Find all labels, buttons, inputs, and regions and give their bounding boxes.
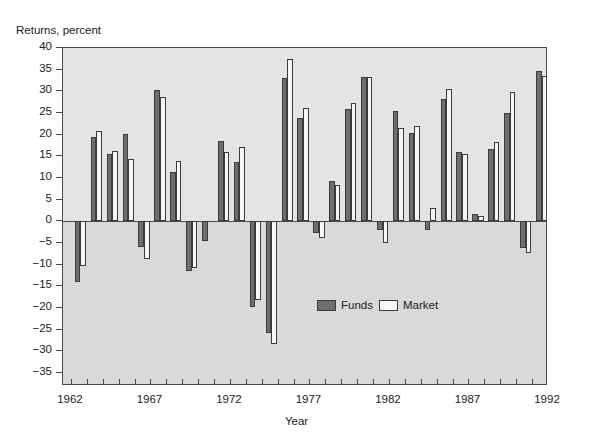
x-tick-mark [341, 379, 342, 385]
bar-funds-1986 [456, 152, 462, 221]
bar-funds-1990 [520, 221, 526, 247]
x-tick-label: 1987 [445, 393, 489, 405]
y-tick-label: −10 [10, 257, 52, 269]
x-tick-label: 1972 [207, 393, 251, 405]
bar-funds-1976 [297, 118, 303, 221]
bar-market-1979 [351, 103, 357, 221]
x-tick-label: 1967 [127, 393, 171, 405]
y-tick-label: 20 [10, 127, 52, 139]
x-tick-mark [453, 379, 454, 385]
x-tick-mark [214, 379, 215, 385]
y-tick-label: 10 [10, 170, 52, 182]
y-tick-label: 40 [10, 40, 52, 52]
y-tick-label: 5 [10, 192, 52, 204]
bar-funds-1971 [218, 141, 224, 222]
chart-legend: Funds Market [317, 300, 438, 312]
y-tick-label: 25 [10, 105, 52, 117]
y-tick-label: −5 [10, 235, 52, 247]
x-tick-mark [150, 379, 151, 385]
x-tick-mark [198, 379, 199, 385]
zero-baseline [63, 221, 546, 222]
bar-market-1973 [255, 221, 261, 299]
bar-funds-1967 [154, 90, 160, 221]
x-tick-mark [500, 379, 501, 385]
bar-market-1964 [112, 151, 118, 222]
x-tick-mark [309, 379, 310, 385]
bar-market-1989 [510, 92, 516, 221]
x-tick-mark [325, 379, 326, 385]
bar-market-1968 [176, 161, 182, 222]
bar-market-1986 [462, 154, 468, 221]
x-tick-mark [182, 379, 183, 385]
x-tick-mark [516, 379, 517, 385]
bar-market-1972 [239, 147, 245, 222]
bar-funds-1975 [282, 78, 288, 221]
x-tick-mark [230, 379, 231, 385]
bar-funds-1991 [536, 71, 542, 222]
x-tick-mark [437, 379, 438, 385]
legend-item-funds: Funds [317, 300, 373, 312]
bar-market-1991 [542, 76, 547, 222]
x-tick-mark [373, 379, 374, 385]
bar-funds-1973 [250, 221, 256, 307]
bar-funds-1969 [186, 221, 192, 271]
bar-funds-1984 [425, 221, 431, 230]
bar-market-1983 [414, 126, 420, 221]
x-tick-mark [468, 379, 469, 385]
bar-funds-1988 [488, 149, 494, 221]
y-tick-label: −20 [10, 300, 52, 312]
x-tick-mark [294, 379, 295, 385]
bar-funds-1989 [504, 113, 510, 222]
plot-area [62, 47, 547, 385]
bar-funds-1968 [170, 172, 176, 222]
bar-market-1974 [271, 221, 277, 344]
x-tick-mark [87, 379, 88, 385]
bar-market-1984 [430, 208, 436, 221]
bar-funds-1982 [393, 111, 399, 221]
x-tick-mark [405, 379, 406, 385]
x-tick-mark [421, 379, 422, 385]
bar-funds-1972 [234, 162, 240, 222]
x-tick-mark [262, 379, 263, 385]
bar-funds-1977 [313, 221, 319, 233]
bar-funds-1980 [361, 77, 367, 221]
bar-funds-1981 [377, 221, 383, 229]
y-tick-label: −15 [10, 278, 52, 290]
chart-figure: Returns, percent 4035302520151050−5−10−1… [0, 0, 593, 440]
x-tick-mark [103, 379, 104, 385]
y-axis-title: Returns, percent [16, 24, 101, 36]
bar-funds-1978 [329, 181, 335, 222]
y-tick-label: −25 [10, 322, 52, 334]
x-tick-mark [166, 379, 167, 385]
bar-market-1966 [144, 221, 150, 259]
x-tick-label: 1982 [366, 393, 410, 405]
bar-market-1980 [367, 77, 373, 221]
y-tick-label: 30 [10, 83, 52, 95]
bar-market-1977 [319, 221, 325, 238]
bar-funds-1985 [441, 99, 447, 222]
bar-market-1975 [287, 59, 293, 221]
x-tick-mark [71, 379, 72, 385]
x-tick-mark [389, 379, 390, 385]
bar-market-1988 [494, 142, 500, 222]
market-swatch-icon [379, 300, 398, 311]
bar-market-1969 [192, 221, 198, 268]
bar-market-1962 [80, 221, 86, 266]
legend-item-market: Market [379, 300, 438, 312]
funds-swatch-icon [317, 300, 336, 311]
bar-market-1963 [96, 131, 102, 222]
x-axis-title: Year [0, 415, 593, 427]
bar-market-1987 [478, 216, 484, 221]
y-tick-label: 0 [10, 213, 52, 225]
x-tick-label: 1977 [286, 393, 330, 405]
bar-funds-1974 [266, 221, 272, 332]
bar-market-1967 [160, 97, 166, 221]
bar-funds-1979 [345, 109, 351, 222]
bar-market-1971 [224, 152, 230, 222]
x-tick-label: 1992 [525, 393, 569, 405]
x-tick-mark [532, 379, 533, 385]
x-tick-mark [119, 379, 120, 385]
bar-market-1982 [398, 128, 404, 222]
x-tick-mark [484, 379, 485, 385]
bar-market-1965 [128, 159, 134, 221]
